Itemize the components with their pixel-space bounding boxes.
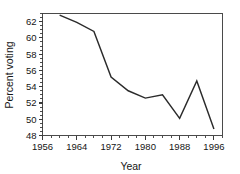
y-tick-label: 54 xyxy=(26,81,37,92)
y-tick-label: 52 xyxy=(26,97,37,108)
y-tick-label: 50 xyxy=(26,114,37,125)
y-tick-label: 58 xyxy=(26,49,37,60)
x-tick-label: 1972 xyxy=(101,141,122,152)
x-axis-title: Year xyxy=(120,160,142,172)
x-tick-label: 1956 xyxy=(32,141,53,152)
y-tick-label: 48 xyxy=(26,130,37,141)
chart-container: 4850525456586062 19561964197219801988199… xyxy=(0,0,240,174)
x-axis-ticks xyxy=(43,136,223,140)
line-chart-plot: 4850525456586062 19561964197219801988199… xyxy=(0,0,240,174)
x-tick-label: 1964 xyxy=(66,141,87,152)
y-tick-label: 62 xyxy=(26,16,37,27)
data-line-percent-voting xyxy=(60,15,214,129)
x-tick-label: 1988 xyxy=(169,141,190,152)
plot-frame xyxy=(43,14,223,136)
x-tick-label: 1980 xyxy=(135,141,156,152)
y-axis-title: Percent voting xyxy=(3,41,15,108)
y-tick-label: 56 xyxy=(26,65,37,76)
y-axis-tick-labels: 4850525456586062 xyxy=(26,16,37,141)
x-tick-label: 1996 xyxy=(203,141,224,152)
y-tick-label: 60 xyxy=(26,32,37,43)
data-series-group xyxy=(60,15,214,129)
x-axis-tick-labels: 195619641972198019881996 xyxy=(32,141,225,152)
y-axis-ticks xyxy=(39,14,43,136)
